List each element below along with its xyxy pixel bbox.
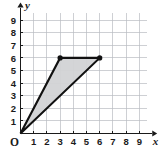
axis-names: xyO	[10, 0, 159, 148]
x-tick-label: 6	[97, 136, 102, 147]
y-tick-label: 5	[11, 65, 17, 76]
y-tick-label: 4	[11, 78, 17, 89]
x-tick-label: 5	[84, 136, 90, 147]
origin-label: O	[10, 136, 19, 148]
x-tick-label: 4	[71, 136, 77, 147]
x-tick-label: 1	[31, 136, 37, 147]
y-tick-label: 7	[11, 40, 16, 51]
vertex-point	[97, 55, 102, 60]
x-tick-label: 8	[123, 136, 128, 147]
y-tick-label: 6	[11, 53, 16, 64]
x-tick-label: 7	[110, 136, 115, 147]
chart-canvas: 123456789123456789 xyO	[0, 0, 160, 154]
x-tick-label: 3	[57, 136, 62, 147]
y-tick-label: 2	[11, 103, 16, 114]
y-axis-label: y	[23, 0, 30, 11]
coordinate-plane-figure: 123456789123456789 xyO	[0, 0, 160, 154]
y-axis-arrow-icon	[17, 3, 23, 8]
x-tick-label: 9	[137, 136, 142, 147]
y-tick-label: 9	[11, 15, 16, 26]
y-tick-label: 3	[11, 90, 16, 101]
plotted-shapes	[21, 55, 103, 133]
y-tick-label: 1	[11, 116, 17, 127]
x-tick-label: 2	[44, 136, 49, 147]
vertex-point	[58, 55, 63, 60]
x-axis-label: x	[152, 135, 159, 147]
y-tick-label: 8	[11, 27, 16, 38]
